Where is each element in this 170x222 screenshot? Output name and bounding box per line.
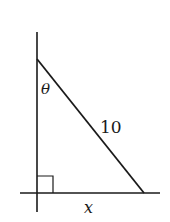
right-angle-marker: [37, 176, 53, 193]
angle-theta-label: θ: [41, 80, 50, 98]
hypotenuse-line: [37, 59, 144, 193]
base-x-label: x: [84, 198, 93, 217]
hypotenuse-length-label: 10: [100, 117, 122, 137]
right-triangle-diagram: θ 10 x: [0, 0, 170, 222]
